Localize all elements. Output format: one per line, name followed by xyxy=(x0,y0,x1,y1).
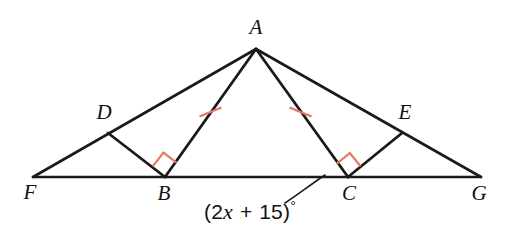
segment-fa xyxy=(33,49,256,177)
segment-db xyxy=(108,133,165,177)
vertex-label-g: G xyxy=(471,183,486,204)
vertex-label-b: B xyxy=(158,183,171,204)
segment-ce xyxy=(348,133,402,177)
vertex-label-c: C xyxy=(342,183,356,204)
vertex-label-a: A xyxy=(250,17,263,38)
angle-label-variable: x xyxy=(223,199,233,224)
segment-ag xyxy=(256,49,481,177)
vertex-label-d: D xyxy=(96,102,111,123)
angle-measure-label: (2x + 15)° xyxy=(204,199,296,223)
vertex-label-f: F xyxy=(24,182,37,203)
geometry-figure: A D E F B C G (2x + 15)° xyxy=(0,0,507,232)
vertex-label-e: E xyxy=(399,102,412,123)
angle-label-operator: + xyxy=(240,200,252,223)
angle-label-prefix: (2 xyxy=(204,200,223,223)
degree-symbol: ° xyxy=(290,198,296,214)
angle-label-constant: 15 xyxy=(259,200,283,223)
